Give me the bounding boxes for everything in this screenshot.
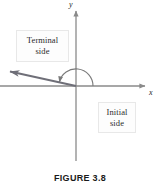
callout-initial-side: Initial side [98,102,136,133]
figure-container: y x Terminal side Initial side FIGURE 3.… [0,0,160,181]
x-axis-label: x [149,88,153,97]
figure-caption: FIGURE 3.8 [0,173,160,181]
callout-terminal-line2: side [17,46,68,57]
callout-terminal-line1: Terminal [17,35,68,46]
callout-terminal-side: Terminal side [16,30,69,62]
callout-initial-line2: side [99,118,135,129]
callout-initial-line1: Initial [99,107,135,118]
terminal-side-ray [10,72,76,87]
y-axis-label: y [69,0,73,9]
figure-graphic [0,0,160,181]
